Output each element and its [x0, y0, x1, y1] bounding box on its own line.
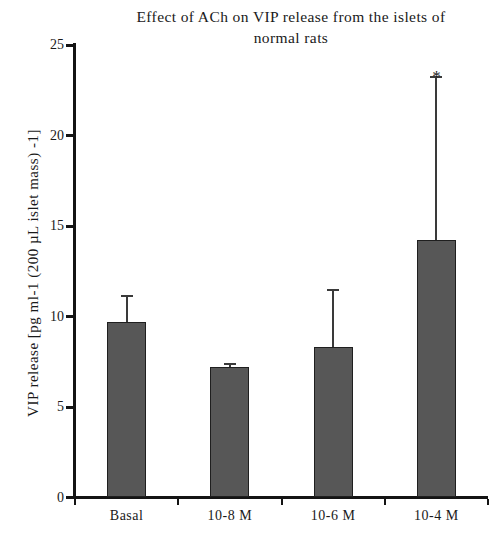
error-bar-cap — [224, 363, 236, 365]
bar-chart: Effect of ACh on VIP release from the is… — [0, 0, 493, 536]
error-bar-stem — [126, 295, 128, 322]
x-tick-mark — [74, 499, 76, 505]
y-tick-label: 0 — [28, 491, 64, 505]
x-category-label: Basal — [77, 508, 177, 524]
y-tick-mark — [66, 44, 74, 47]
y-tick-label-container: 25 — [24, 38, 64, 52]
y-tick-label-container: 0 — [24, 491, 64, 505]
x-tick-mark — [281, 499, 283, 505]
error-bar-stem — [332, 289, 334, 347]
x-tick-mark — [177, 499, 179, 505]
y-axis-title-container: VIP release [pg ml-1 (200 µL islet mass)… — [22, 103, 44, 443]
x-category-label: 10-4 M — [386, 508, 486, 524]
plot-area: 0510152025 * Basal10-8 M10-6 M10-4 M VIP… — [0, 0, 493, 536]
bar — [417, 240, 456, 497]
y-tick-mark — [66, 496, 74, 499]
error-bar-cap — [121, 295, 133, 297]
bar — [314, 347, 353, 497]
x-tick-mark — [384, 499, 386, 505]
x-category-label: 10-8 M — [180, 508, 280, 524]
bar — [107, 322, 146, 498]
x-category-label: 10-6 M — [283, 508, 383, 524]
y-tick-mark — [66, 315, 74, 318]
bar — [210, 367, 249, 497]
error-bar-cap — [327, 289, 339, 291]
x-tick-mark — [487, 499, 489, 505]
y-tick-mark — [66, 406, 74, 409]
y-axis-line — [73, 43, 76, 499]
error-bar-stem — [435, 76, 437, 241]
y-tick-mark — [66, 225, 74, 228]
y-axis-title: VIP release [pg ml-1 (200 µL islet mass)… — [22, 103, 44, 443]
y-tick-label: 25 — [28, 38, 64, 52]
y-tick-mark — [66, 134, 74, 137]
significance-marker: * — [421, 68, 451, 85]
